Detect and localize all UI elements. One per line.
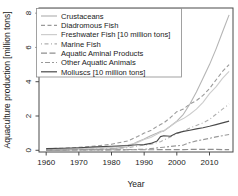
y-tick-label: 0 [24,148,33,153]
legend: CrustaceansDiadromous FishFreshwater Fis… [37,9,182,78]
legend-label-aquatic-aminal-products: Aquatic Aminal Products [61,49,144,58]
x-axis-ticks: 196019701980199020002010 [37,152,219,167]
line-chart: 196019701980199020002010 02468 Crustacea… [0,0,238,196]
x-tick-label: 2010 [201,158,219,167]
legend-label-freshwater-fish-10-million-tons: Freshwater Fish [10 million tons] [61,30,170,39]
legend-label-diadromous-fish: Diadromous Fish [61,21,118,30]
x-tick-label: 1980 [103,158,121,167]
x-tick-label: 1990 [135,158,153,167]
y-tick-label: 8 [24,10,33,15]
x-tick-label: 2000 [168,158,186,167]
series-line-molluscs-10-million-tons [46,121,229,149]
series-line-freshwater-fish-10-million-tons [46,71,229,149]
y-tick-label: 4 [24,79,33,84]
x-axis-title: Year [127,179,144,189]
y-tick-label: 6 [24,45,33,50]
legend-label-other-aquatic-animals: Other Aquatic Animals [61,58,136,67]
x-tick-label: 1970 [70,158,88,167]
legend-label-marine-fish: Marine Fish [61,40,101,49]
legend-label-crustaceans: Crustaceans [61,12,104,21]
x-tick-label: 1960 [37,158,55,167]
aquaculture-production-figure: 196019701980199020002010 02468 Crustacea… [0,0,238,196]
y-tick-label: 2 [24,113,33,118]
y-axis-title: Aquaculture production [million tons] [2,11,12,148]
legend-label-molluscs-10-million-tons: Molluscs [10 million tons] [61,68,145,77]
